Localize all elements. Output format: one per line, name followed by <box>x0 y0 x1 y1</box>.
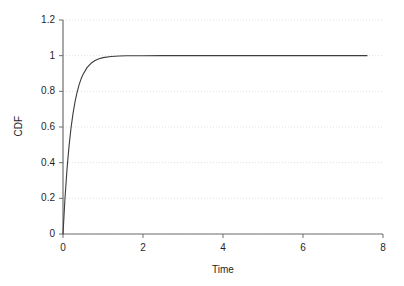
tick-marks-group <box>59 20 383 238</box>
y-tick-label: 1 <box>0 51 55 61</box>
data-series-group <box>63 56 367 234</box>
x-tick-label: 6 <box>300 243 306 253</box>
y-tick-label: 0.8 <box>0 86 55 96</box>
y-tick-label: 1.2 <box>0 15 55 25</box>
x-tick-label: 2 <box>140 243 146 253</box>
x-axis-title: Time <box>63 264 383 275</box>
x-tick-label: 8 <box>380 243 386 253</box>
y-axis-title: CDF <box>13 117 24 137</box>
y-tick-label: 0 <box>0 229 55 239</box>
y-tick-label: 0.6 <box>0 122 55 132</box>
gridlines-group <box>63 20 383 234</box>
series-line-cdf <box>63 56 367 234</box>
chart-figure: 00.20.40.60.811.2 02468 CDF Time <box>0 0 404 286</box>
y-tick-label: 0.4 <box>0 158 55 168</box>
x-tick-label: 4 <box>220 243 226 253</box>
y-tick-label: 0.2 <box>0 193 55 203</box>
x-tick-label: 0 <box>60 243 66 253</box>
